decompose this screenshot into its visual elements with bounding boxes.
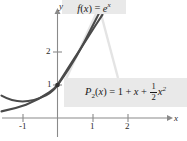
- function-equals: =: [94, 2, 100, 13]
- polynomial-label-text: P2(x)=1+x+12x2: [85, 83, 166, 102]
- x-axis-label: x: [174, 113, 178, 123]
- function-exponent: x: [108, 1, 111, 9]
- polynomial-fraction-one-half: 12: [150, 82, 156, 101]
- plot-area: [0, 0, 187, 141]
- polynomial-term-1: 1: [118, 86, 123, 97]
- x-tick-label-1: 1: [90, 121, 95, 131]
- y-axis-label: y: [59, 1, 63, 11]
- tangency-point-marker: [55, 83, 60, 88]
- polynomial-term-x: x: [134, 86, 139, 97]
- polynomial-paren-close: ): [103, 86, 107, 97]
- polynomial-label-box: P2(x)=1+x+12x2: [64, 78, 187, 107]
- polynomial-plus-2: +: [141, 86, 147, 97]
- x-axis: [2, 114, 173, 122]
- x-tick-label-2: 2: [125, 121, 130, 131]
- function-label-box: f(x)=ex: [62, 0, 126, 14]
- y-tick-label-1: 1: [47, 79, 52, 89]
- polynomial-term-x-squared-exponent: 2: [162, 84, 166, 92]
- fraction-denominator: 2: [150, 92, 156, 102]
- function-label-text: f(x)=ex: [77, 1, 110, 14]
- fraction-numerator: 1: [150, 82, 156, 91]
- y-tick-label-2: 2: [46, 46, 51, 56]
- taylor-polynomial-figure: f(x)=ex P2(x)=1+x+12x2 -1 1 2 1 2 x y: [0, 0, 187, 141]
- leader-lines: [66, 14, 118, 79]
- function-paren-close: ): [88, 2, 92, 13]
- polynomial-equals: =: [109, 86, 115, 97]
- polynomial-plus-1: +: [125, 86, 131, 97]
- x-tick-label--1: -1: [19, 121, 27, 131]
